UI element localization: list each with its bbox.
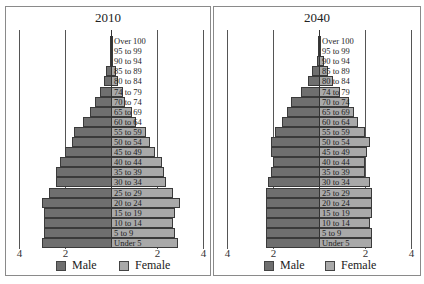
legend-item-female: Female	[119, 258, 170, 273]
plot-area: 4224Under 55 to 910 to 1415 to 1920 to 2…	[6, 7, 210, 275]
female-swatch-icon	[119, 261, 129, 271]
male-bar	[287, 107, 320, 117]
age-group-label: 15 to 19	[322, 208, 350, 218]
age-group-label: 10 to 14	[322, 218, 350, 228]
male-bar	[301, 87, 320, 97]
age-group-label: 60 to 64	[322, 117, 350, 127]
gridline	[203, 30, 204, 249]
age-group-label: 20 to 24	[114, 198, 142, 208]
male-bar	[266, 208, 320, 218]
age-group-label: 70 to 74	[114, 97, 142, 107]
male-bar	[275, 127, 320, 137]
age-group-label: 55 to 59	[114, 127, 142, 137]
age-group-label: Over 100	[322, 36, 354, 46]
x-tick-label: 4	[409, 247, 415, 259]
age-group-label: 90 to 94	[322, 56, 350, 66]
age-group-label: Under 5	[322, 238, 350, 248]
legend-label: Female	[135, 258, 170, 273]
gridline	[411, 30, 412, 249]
male-bar	[60, 157, 112, 167]
age-group-label: 95 to 99	[114, 46, 142, 56]
age-group-label: 25 to 29	[114, 188, 142, 198]
legend-label: Male	[280, 258, 305, 273]
age-group-label: 65 to 69	[322, 107, 350, 117]
male-bar	[72, 137, 112, 147]
male-bar	[271, 147, 320, 157]
age-group-label: 50 to 54	[114, 137, 142, 147]
age-group-label: 15 to 19	[114, 208, 142, 218]
age-group-label: 30 to 34	[322, 177, 350, 187]
age-group-label: 85 to 89	[322, 66, 350, 76]
male-bar	[42, 198, 112, 208]
male-bar	[282, 117, 320, 127]
male-bar	[90, 107, 112, 117]
male-bar	[95, 97, 112, 107]
male-swatch-icon	[264, 261, 274, 271]
age-group-label: 50 to 54	[322, 137, 350, 147]
age-group-label: 5 to 9	[322, 228, 341, 238]
x-tick-label: 4	[17, 247, 23, 259]
age-group-label: 20 to 24	[322, 198, 350, 208]
male-bar	[271, 167, 320, 177]
x-tick-label: 4	[225, 247, 231, 259]
age-group-label: 74 to 79	[114, 87, 142, 97]
female-swatch-icon	[325, 261, 335, 271]
legend-label: Male	[72, 258, 97, 273]
male-bar	[49, 188, 112, 198]
male-bar	[273, 157, 320, 167]
male-bar	[266, 198, 320, 208]
gridline	[227, 30, 228, 249]
age-group-label: 45 to 49	[322, 147, 350, 157]
age-group-label: 35 to 39	[114, 167, 142, 177]
age-group-label: 30 to 34	[114, 177, 142, 187]
age-group-label: Under 5	[114, 238, 142, 248]
male-bar	[266, 238, 320, 248]
age-group-label: 40 to 44	[114, 157, 142, 167]
male-bar	[44, 218, 112, 228]
age-group-label: 95 to 99	[322, 46, 350, 56]
pyramid-panel-2010: 2010 4224Under 55 to 910 to 1415 to 1920…	[5, 6, 211, 276]
male-bar	[74, 127, 112, 137]
male-bar	[266, 218, 320, 228]
legend-item-female: Female	[325, 258, 376, 273]
age-group-label: 35 to 39	[322, 167, 350, 177]
male-bar	[271, 137, 320, 147]
gridline	[19, 30, 20, 249]
age-group-label: 65 to 69	[114, 107, 142, 117]
age-group-label: 55 to 59	[322, 127, 350, 137]
male-bar	[56, 177, 112, 187]
age-group-label: 85 to 89	[114, 66, 142, 76]
male-swatch-icon	[56, 261, 66, 271]
male-bar	[268, 177, 320, 187]
age-group-label: 80 to 84	[114, 76, 142, 86]
age-group-label: 60 to 64	[114, 117, 142, 127]
legend-label: Female	[341, 258, 376, 273]
pyramid-panel-2040: 2040 4224Under 55 to 910 to 1415 to 1920…	[213, 6, 421, 276]
age-group-label: 5 to 9	[114, 228, 133, 238]
age-group-label: 10 to 14	[114, 218, 142, 228]
male-bar	[83, 117, 112, 127]
age-group-label: 25 to 29	[322, 188, 350, 198]
x-tick-label: 4	[201, 247, 207, 259]
male-bar	[291, 97, 320, 107]
age-group-label: 90 to 94	[114, 56, 142, 66]
center-axis	[319, 30, 320, 243]
age-group-label: 74 to 79	[322, 87, 350, 97]
age-group-label: 80 to 84	[322, 76, 350, 86]
male-bar	[65, 147, 112, 157]
age-group-label: 45 to 49	[114, 147, 142, 157]
age-group-label: 40 to 44	[322, 157, 350, 167]
legend-item-male: Male	[264, 258, 305, 273]
male-bar	[44, 228, 112, 238]
center-axis	[111, 30, 112, 243]
male-bar	[266, 188, 320, 198]
male-bar	[56, 167, 112, 177]
male-bar	[44, 208, 112, 218]
plot-area: 4224Under 55 to 910 to 1415 to 1920 to 2…	[214, 7, 420, 275]
age-group-label: Over 100	[114, 36, 146, 46]
legend-item-male: Male	[56, 258, 97, 273]
age-group-label: 70 to 74	[322, 97, 350, 107]
male-bar	[42, 238, 112, 248]
male-bar	[266, 228, 320, 238]
